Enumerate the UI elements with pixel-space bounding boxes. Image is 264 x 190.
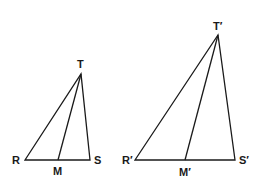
- label-s: S: [94, 154, 101, 166]
- label-r: R: [12, 154, 20, 166]
- label-r-prime: R′: [122, 154, 133, 166]
- label-s-prime: S′: [239, 154, 249, 166]
- triangle-rst: [25, 74, 90, 160]
- median-tm-prime: [185, 35, 218, 160]
- median-tm: [58, 74, 81, 160]
- similar-triangles-diagram: T R M S T′ R′ M′ S′: [0, 0, 264, 190]
- label-m-prime: M′: [179, 166, 191, 178]
- label-t-prime: T′: [213, 20, 223, 32]
- triangle-rst-prime: [135, 35, 235, 160]
- triangle-small: T R M S: [12, 58, 101, 177]
- label-m: M: [53, 165, 62, 177]
- label-t: T: [77, 58, 84, 70]
- triangle-large: T′ R′ M′ S′: [122, 20, 249, 178]
